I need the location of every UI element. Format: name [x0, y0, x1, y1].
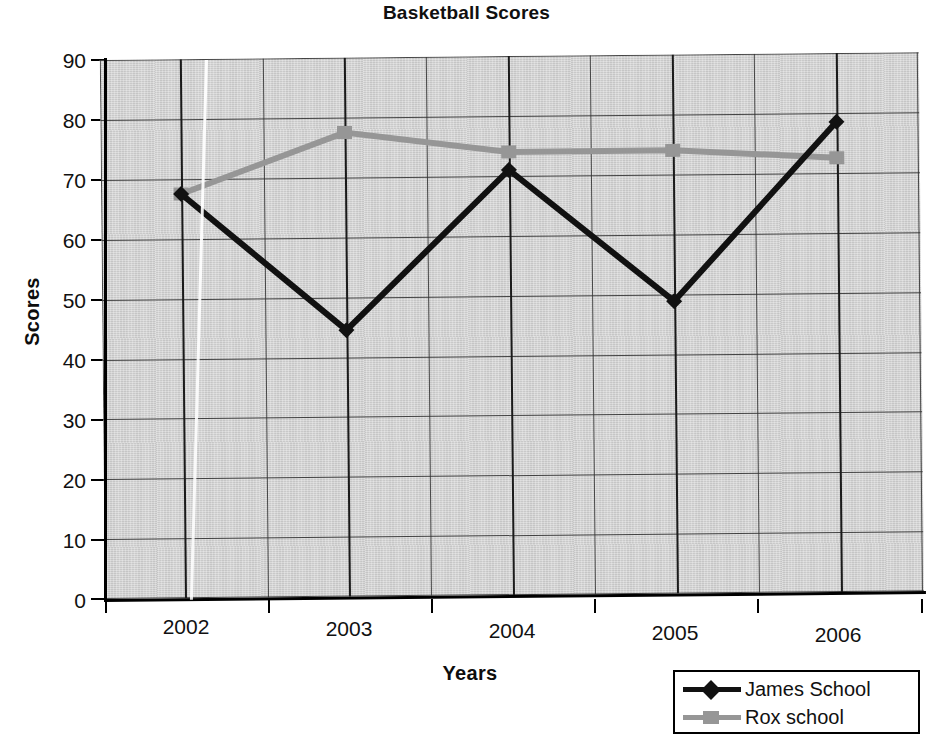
y-tick-label: 20: [0, 470, 86, 491]
y-tick-label: 0: [0, 590, 86, 611]
y-axis-tick: [91, 479, 104, 481]
x-tick-label: 2004: [452, 619, 572, 643]
legend-label: James School: [745, 678, 871, 701]
x-axis-title: Years: [270, 662, 670, 685]
y-tick-label: 30: [0, 410, 86, 431]
x-axis-tick: [757, 599, 759, 613]
y-axis-tick: [91, 539, 104, 541]
x-axis-tick: [921, 599, 923, 613]
x-tick-label: 2006: [778, 623, 898, 647]
legend-item-rox-school[interactable]: Rox school: [683, 703, 912, 731]
y-axis-title: Scores: [21, 242, 44, 382]
series-rox-school: [173, 121, 845, 200]
square-marker-icon: [703, 711, 719, 724]
series-layer: [100, 52, 924, 599]
x-tick-label: 2005: [615, 621, 735, 645]
legend-key-rox-school: [683, 708, 741, 726]
chart-title: Basketball Scores: [0, 2, 933, 24]
y-tick-label: 10: [0, 530, 86, 551]
x-axis-tick: [268, 599, 270, 613]
y-axis-tick: [91, 419, 104, 421]
y-axis-line: [104, 58, 107, 601]
y-tick-label: 70: [0, 170, 86, 191]
x-tick-label: 2003: [289, 617, 409, 641]
legend-key-james-school: [683, 680, 741, 698]
y-axis-tick: [91, 598, 104, 600]
x-tick-label: 2002: [126, 615, 246, 639]
x-axis-tick: [105, 599, 107, 613]
diamond-marker-icon: [701, 680, 721, 700]
legend-label: Rox school: [745, 706, 844, 729]
y-tick-label: 90: [0, 50, 86, 71]
x-axis-tick: [594, 599, 596, 613]
legend-item-james-school[interactable]: James School: [683, 675, 912, 703]
y-tick-label: 80: [0, 110, 86, 131]
chart-legend: James School Rox school: [673, 670, 920, 734]
chart-figure: Basketball Scores 90 80 70 60 50 40 30 2…: [0, 0, 933, 756]
x-axis-tick: [431, 599, 433, 613]
plot-area: [100, 52, 924, 599]
